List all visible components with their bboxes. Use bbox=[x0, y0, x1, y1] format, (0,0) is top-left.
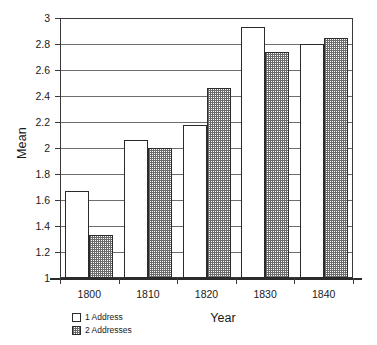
legend-item-1: 1 Address bbox=[72, 311, 132, 323]
x-axis-tick-label: 1830 bbox=[235, 288, 295, 300]
x-axis-tick-label: 1810 bbox=[118, 288, 178, 300]
bar-1830-series2 bbox=[265, 52, 289, 278]
x-axis-tick-mark bbox=[60, 278, 61, 284]
x-axis-tick-mark bbox=[236, 278, 237, 284]
bar-1800-series1 bbox=[65, 191, 89, 278]
bar-1820-series1 bbox=[183, 125, 207, 278]
bar-1810-series1 bbox=[124, 140, 148, 278]
x-axis-tick-label: 1840 bbox=[294, 288, 354, 300]
x-axis-tick-mark bbox=[177, 278, 178, 284]
x-axis-line bbox=[50, 278, 362, 280]
bar-chart: Mean 11.21.41.61.822.22.42.62.83 1800181… bbox=[0, 0, 377, 345]
x-axis-tick-label: 1820 bbox=[177, 288, 237, 300]
bar-1840-series1 bbox=[300, 44, 324, 278]
x-axis-tick-mark bbox=[353, 278, 354, 284]
legend: 1 Address2 Addresses bbox=[72, 311, 132, 337]
x-axis-tick-mark bbox=[294, 278, 295, 284]
bar-1810-series2 bbox=[148, 148, 172, 278]
bar-1840-series2 bbox=[324, 38, 348, 279]
x-axis-title: Year bbox=[178, 311, 268, 325]
bar-1800-series2 bbox=[89, 235, 113, 278]
legend-label: 1 Address bbox=[85, 313, 123, 322]
bar-1820-series2 bbox=[207, 88, 231, 278]
legend-item-2: 2 Addresses bbox=[72, 324, 132, 336]
x-axis-tick-label: 1800 bbox=[59, 288, 119, 300]
legend-swatch-2 bbox=[72, 326, 81, 335]
legend-label: 2 Addresses bbox=[85, 326, 132, 335]
bar-1830-series1 bbox=[241, 27, 265, 278]
legend-swatch-1 bbox=[72, 313, 81, 322]
x-axis-tick-mark bbox=[119, 278, 120, 284]
